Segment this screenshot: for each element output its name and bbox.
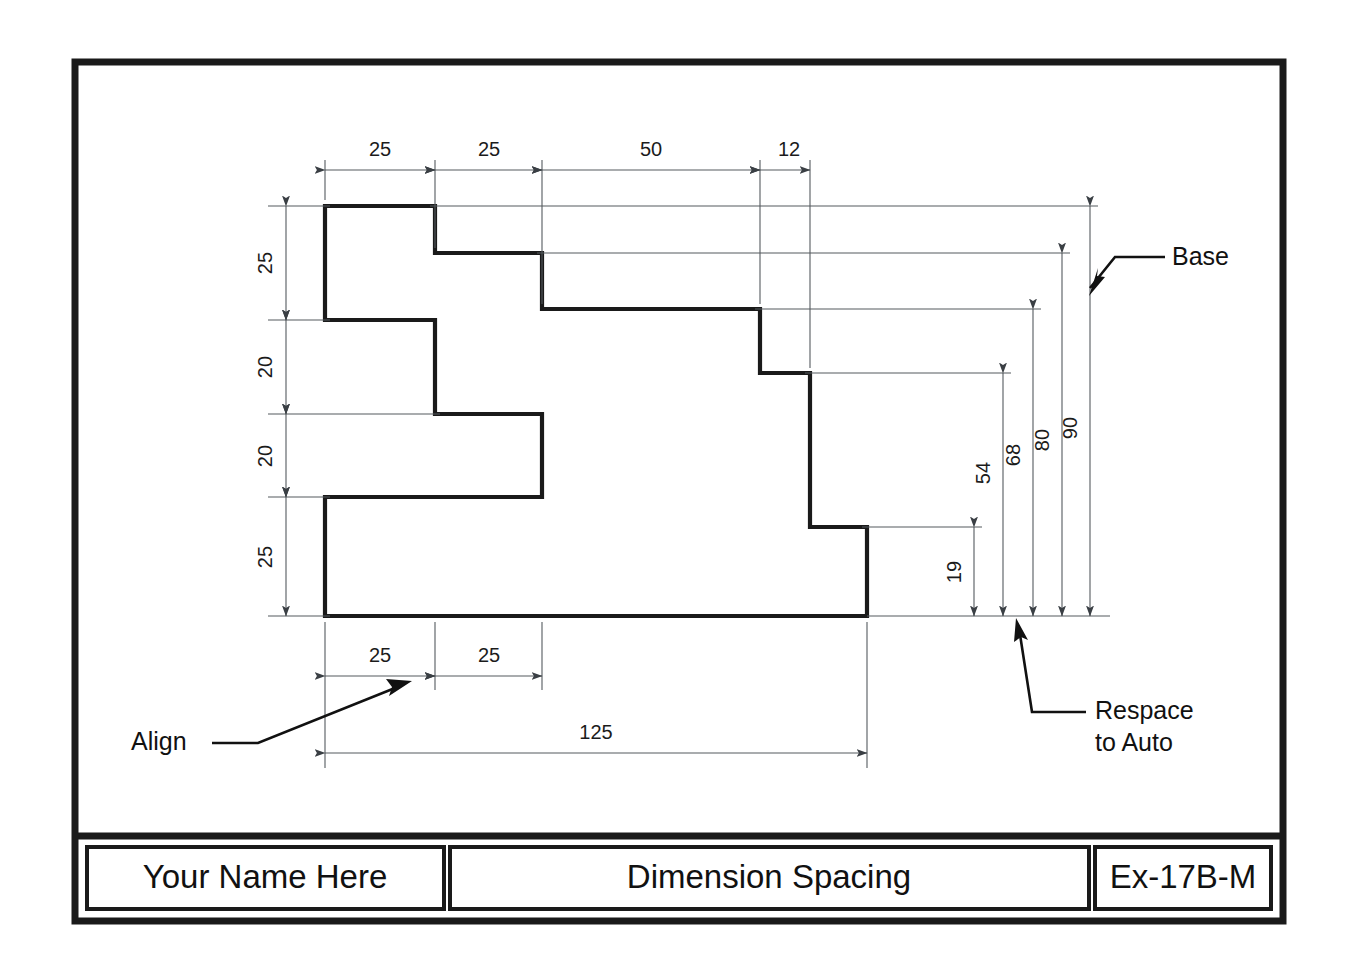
title-block-title-text: Dimension Spacing	[627, 858, 911, 895]
dim-text-left-2: 20	[254, 356, 276, 378]
dim-text-top-1: 25	[369, 138, 391, 160]
respace-annotation-label-line1: Respace	[1095, 696, 1194, 724]
align-annotation-label: Align	[131, 727, 187, 755]
dim-text-right-5: 90	[1059, 417, 1081, 439]
technical-drawing-canvas: Your Name Here Dimension Spacing Ex-17B-…	[0, 0, 1348, 973]
dim-text-right-3: 68	[1002, 444, 1024, 466]
dim-text-right-1: 19	[943, 561, 965, 583]
base-leader-line	[1090, 257, 1165, 288]
dim-text-top-4: 12	[778, 138, 800, 160]
dim-text-right-2: 54	[972, 462, 994, 484]
dim-text-bottom-2: 25	[478, 644, 500, 666]
respace-annotation-label-line2: to Auto	[1095, 728, 1173, 756]
dim-text-top-2: 25	[478, 138, 500, 160]
title-block-name-text: Your Name Here	[143, 858, 388, 895]
respace-leader-line	[1019, 628, 1086, 712]
dim-text-top-3: 50	[640, 138, 662, 160]
base-annotation-label: Base	[1172, 242, 1229, 270]
title-block-number-text: Ex-17B-M	[1110, 858, 1257, 895]
sheet-border	[75, 62, 1283, 921]
part-outline	[325, 206, 867, 616]
dim-text-left-1: 25	[254, 252, 276, 274]
dim-text-left-3: 20	[254, 445, 276, 467]
dim-text-bottom-3: 125	[579, 721, 612, 743]
drawing-sheet: Your Name Here Dimension Spacing Ex-17B-…	[0, 0, 1348, 973]
dim-text-left-4: 25	[254, 546, 276, 568]
align-leader-arrow-icon	[386, 679, 412, 696]
dim-text-bottom-1: 25	[369, 644, 391, 666]
align-leader-line	[212, 686, 400, 743]
dim-text-right-4: 80	[1031, 429, 1053, 451]
